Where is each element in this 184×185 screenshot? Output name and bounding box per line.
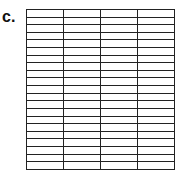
grid-cell — [27, 70, 64, 78]
grid-cell — [64, 55, 101, 63]
grid-row — [27, 17, 175, 25]
grid-cell — [138, 139, 175, 147]
grid-cell — [138, 116, 175, 124]
grid-cell — [101, 162, 138, 170]
grid-cell — [101, 139, 138, 147]
grid-cell — [64, 162, 101, 170]
grid-row — [27, 93, 175, 101]
grid-cell — [138, 146, 175, 154]
grid-cell — [101, 116, 138, 124]
grid-row — [27, 146, 175, 154]
grid-cell — [27, 10, 64, 18]
grid-cell — [138, 55, 175, 63]
grid-cell — [64, 146, 101, 154]
grid-cell — [27, 162, 64, 170]
grid-cell — [101, 40, 138, 48]
grid-cell — [138, 25, 175, 33]
grid-cell — [101, 146, 138, 154]
grid-cell — [64, 154, 101, 162]
grid-cell — [64, 10, 101, 18]
grid-cell — [64, 139, 101, 147]
grid-cell — [138, 154, 175, 162]
grid-row — [27, 131, 175, 139]
grid-row — [27, 32, 175, 40]
grid-row — [27, 70, 175, 78]
grid-cell — [27, 93, 64, 101]
grid-cell — [138, 32, 175, 40]
grid-row — [27, 40, 175, 48]
grid-cell — [27, 124, 64, 132]
grid-cell — [101, 93, 138, 101]
grid-cell — [64, 93, 101, 101]
grid-cell — [138, 70, 175, 78]
grid-cell — [101, 25, 138, 33]
grid-cell — [27, 101, 64, 109]
grid-cell — [138, 162, 175, 170]
grid-cell — [64, 86, 101, 94]
grid-cell — [138, 17, 175, 25]
grid-cell — [138, 124, 175, 132]
grid-cell — [138, 108, 175, 116]
grid-cell — [27, 116, 64, 124]
grid-cell — [64, 25, 101, 33]
grid-cell — [64, 131, 101, 139]
grid-cell — [101, 32, 138, 40]
grid-cell — [64, 116, 101, 124]
grid-cell — [64, 70, 101, 78]
grid-cell — [138, 10, 175, 18]
grid-cell — [101, 70, 138, 78]
grid-row — [27, 124, 175, 132]
grid-cell — [101, 86, 138, 94]
grid-cell — [27, 78, 64, 86]
grid-cell — [64, 40, 101, 48]
grid-cell — [101, 101, 138, 109]
grid-row — [27, 139, 175, 147]
grid-cell — [138, 131, 175, 139]
grid-cell — [138, 101, 175, 109]
grid-row — [27, 101, 175, 109]
grid-cell — [27, 25, 64, 33]
grid-cell — [101, 17, 138, 25]
grid-cell — [101, 48, 138, 56]
grid-cell — [101, 78, 138, 86]
grid-cell — [138, 40, 175, 48]
grid-cell — [27, 17, 64, 25]
grid-row — [27, 63, 175, 71]
grid-cell — [64, 101, 101, 109]
grid-row — [27, 55, 175, 63]
grid-cell — [138, 48, 175, 56]
grid-cell — [138, 63, 175, 71]
grid-cell — [101, 124, 138, 132]
grid-row — [27, 25, 175, 33]
grid-cell — [101, 10, 138, 18]
grid-row — [27, 10, 175, 18]
grid-cell — [27, 40, 64, 48]
grid-cell — [27, 154, 64, 162]
grid-row — [27, 48, 175, 56]
grid-cell — [138, 93, 175, 101]
grid-cell — [101, 108, 138, 116]
grid-cell — [138, 86, 175, 94]
figure-label: c. — [2, 8, 15, 26]
grid-cell — [64, 78, 101, 86]
grid-cell — [27, 146, 64, 154]
grid-cell — [64, 108, 101, 116]
grid-cell — [27, 63, 64, 71]
grid-cell — [64, 48, 101, 56]
empty-grid-table — [26, 9, 175, 170]
grid-row — [27, 78, 175, 86]
grid-cell — [64, 32, 101, 40]
grid-cell — [27, 32, 64, 40]
grid-row — [27, 154, 175, 162]
grid-cell — [64, 17, 101, 25]
grid-cell — [27, 108, 64, 116]
grid-cell — [64, 63, 101, 71]
grid-row — [27, 162, 175, 170]
grid-row — [27, 86, 175, 94]
grid-cell — [27, 131, 64, 139]
grid-cell — [64, 124, 101, 132]
grid-cell — [27, 139, 64, 147]
grid-cell — [27, 48, 64, 56]
grid-row — [27, 116, 175, 124]
grid-cell — [138, 78, 175, 86]
